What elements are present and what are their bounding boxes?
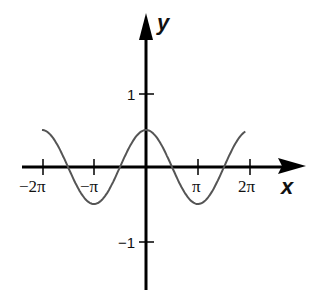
x-tick-label-neg2pi: −2π bbox=[19, 177, 46, 196]
y-axis-label: y bbox=[156, 10, 171, 35]
x-axis-label: x bbox=[280, 174, 294, 199]
x-tick-label-2pi: 2π bbox=[238, 177, 256, 196]
x-tick-label-negpi: −π bbox=[80, 177, 99, 196]
y-tick-label-neg1: −1 bbox=[118, 234, 135, 251]
y-axis-arrow-icon bbox=[139, 13, 153, 40]
y-tick-label-1: 1 bbox=[127, 86, 135, 103]
chart-svg: −2π −π π 2π 1 −1 y x bbox=[0, 0, 322, 300]
x-tick-label-pi: π bbox=[192, 177, 201, 196]
x-axis-arrow-icon bbox=[278, 158, 306, 174]
chart-container: −2π −π π 2π 1 −1 y x bbox=[0, 0, 322, 300]
